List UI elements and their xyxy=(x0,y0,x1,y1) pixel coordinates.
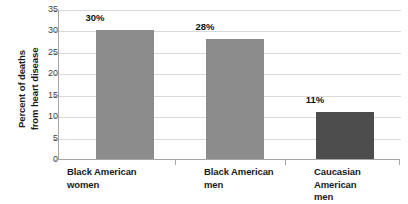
y-tick-label-15: 15 xyxy=(18,90,58,100)
x-tick-mark-3 xyxy=(399,160,400,165)
bar-chart: Percent of deaths from heart disease 35 … xyxy=(0,0,408,204)
bar-black-american-men[interactable] xyxy=(206,39,264,159)
y-tick-label-35: 35 xyxy=(18,4,58,14)
y-tick-label-25: 25 xyxy=(18,47,58,57)
x-axis-label-line-2: American xyxy=(314,179,361,192)
y-tick-label-10: 10 xyxy=(18,111,58,121)
x-tick-mark-2 xyxy=(285,160,286,165)
x-axis-label-black-american-women: Black American women xyxy=(67,166,137,191)
x-axis-label-caucasian-american-men: Caucasian American men xyxy=(314,166,361,204)
x-axis-label-line-3: men xyxy=(314,191,361,204)
y-tick-label-5: 5 xyxy=(18,133,58,143)
x-tick-mark-1 xyxy=(175,160,176,165)
bar-black-american-women[interactable] xyxy=(96,30,154,159)
bar-caucasian-american-men[interactable] xyxy=(316,112,374,159)
y-tick-label-20: 20 xyxy=(18,68,58,78)
data-label-black-american-men: 28% xyxy=(170,21,240,32)
x-axis-label-line-2: women xyxy=(67,179,137,192)
data-label-caucasian-american-men: 11% xyxy=(280,94,350,105)
x-axis-label-line-1: Black American xyxy=(204,166,274,179)
y-axis: 35 30 25 20 15 10 5 0 xyxy=(0,0,58,204)
y-tick-label-30: 30 xyxy=(18,25,58,35)
x-axis-label-line-1: Caucasian xyxy=(314,166,361,179)
x-axis-label-line-2: men xyxy=(204,179,274,192)
y-tick-label-0: 0 xyxy=(18,154,58,164)
gridline-35 xyxy=(59,10,401,11)
plot-area xyxy=(58,10,400,160)
x-axis-label-line-1: Black American xyxy=(67,166,137,179)
data-label-black-american-women: 30% xyxy=(60,12,130,23)
x-axis-label-black-american-men: Black American men xyxy=(204,166,274,191)
y-tick-mark-0 xyxy=(53,160,58,161)
